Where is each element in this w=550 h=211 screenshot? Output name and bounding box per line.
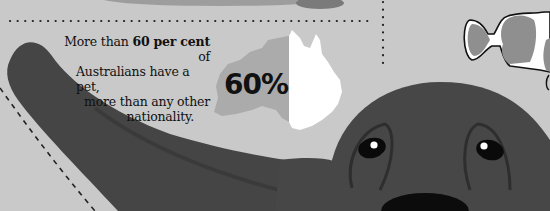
fact-line-4: nationality. bbox=[60, 109, 210, 124]
infographic-panel: More than 60 per cent of Australians hav… bbox=[0, 0, 550, 211]
clownfish-illustration bbox=[464, 12, 550, 90]
fact-text: of bbox=[198, 49, 210, 64]
fact-line-1: More than 60 per cent of bbox=[60, 34, 210, 64]
fact-line-2: Australians have a pet, bbox=[60, 64, 210, 94]
fact-text: More than bbox=[64, 34, 132, 49]
fact-highlight: 60 per cent bbox=[132, 34, 210, 49]
top-object-shadow bbox=[100, 0, 344, 9]
pet-ownership-fact: More than 60 per cent of Australians hav… bbox=[60, 34, 210, 124]
stat-percentage: 60% bbox=[224, 68, 288, 101]
fact-line-3: more than any other bbox=[60, 94, 210, 109]
australia-map-east bbox=[289, 30, 342, 130]
